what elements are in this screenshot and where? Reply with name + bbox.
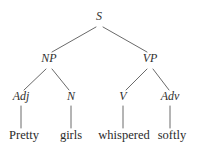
vp-to-adv xyxy=(153,69,169,90)
np-to-n xyxy=(52,69,69,90)
syntax-tree-figure: S NP VP Adj N V Adv Pretty girls whisper… xyxy=(0,0,202,150)
s-to-np xyxy=(52,27,96,52)
node-adj: Adj xyxy=(13,90,30,102)
node-vp: VP xyxy=(143,52,158,64)
node-np: NP xyxy=(41,52,56,64)
node-s: S xyxy=(96,10,102,22)
vp-to-v xyxy=(126,69,147,90)
node-adv: Adv xyxy=(161,90,180,102)
word-pretty: Pretty xyxy=(9,129,39,142)
np-to-adj xyxy=(24,69,46,90)
word-whispered: whispered xyxy=(98,129,149,142)
s-to-vp xyxy=(103,27,147,52)
word-girls: girls xyxy=(60,129,82,142)
node-n: N xyxy=(67,90,75,102)
word-softly: softly xyxy=(158,129,186,142)
node-v: V xyxy=(119,90,126,102)
